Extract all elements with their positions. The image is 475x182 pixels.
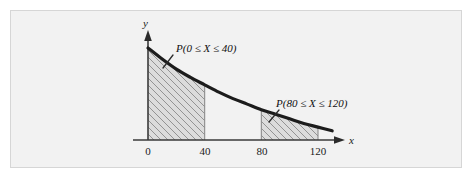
hatch-line	[317, 44, 417, 144]
y-axis-label: y	[142, 17, 148, 29]
hatch-line	[198, 44, 298, 144]
hatch-line	[58, 44, 158, 144]
y-axis-arrowhead	[144, 30, 152, 41]
figure-root: y x 0 40 80 120 P(0 ≤ X ≤ 40) P(80 ≤ X ≤…	[0, 0, 475, 182]
probability-density-chart: y x 0 40 80 120 P(0 ≤ X ≤ 40) P(80 ≤ X ≤…	[0, 0, 475, 182]
probability-label-region-2: P(80 ≤ X ≤ 120)	[275, 97, 348, 110]
x-axis-label: x	[348, 134, 354, 146]
x-tick-label-40: 40	[200, 145, 212, 157]
hatch-line	[324, 44, 424, 144]
probability-label-region-1: P(0 ≤ X ≤ 40)	[175, 42, 237, 55]
hatch-line	[44, 44, 144, 144]
hatch-line	[191, 44, 291, 144]
x-axis-arrowhead	[334, 136, 345, 144]
x-tick-label-80: 80	[257, 145, 269, 157]
x-tick-label-0: 0	[145, 145, 151, 157]
hatch-line	[51, 44, 151, 144]
x-tick-label-120: 120	[310, 145, 327, 157]
